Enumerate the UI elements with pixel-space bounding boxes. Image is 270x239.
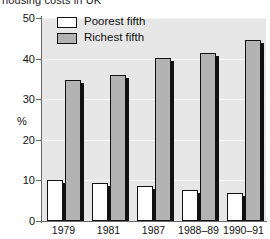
legend-label: Poorest fifth [84, 16, 145, 28]
bar-richest-1987 [155, 58, 171, 221]
y-tick-label: 30 [3, 93, 35, 105]
y-tick-mark [36, 99, 41, 100]
bar-richest-1990-91 [245, 40, 261, 221]
y-tick-label: 50 [3, 12, 35, 24]
bar-shadow [171, 61, 174, 221]
bar-poorest-1988-89 [182, 190, 198, 221]
x-tick-label: 1981 [97, 224, 120, 236]
x-axis-line [41, 221, 267, 222]
x-tick-label: 1979 [52, 224, 75, 236]
y-tick-label: 10 [3, 174, 35, 186]
bar-poorest-1987 [137, 186, 153, 221]
bar-richest-1979 [65, 80, 81, 221]
y-tick-mark [36, 180, 41, 181]
chart-legend: Poorest fifthRichest fifth [57, 15, 145, 47]
x-tick-label: 1987 [142, 224, 165, 236]
bar-richest-1988-89 [200, 53, 216, 221]
bar-shadow [81, 83, 84, 221]
y-tick-label: 0 [3, 215, 35, 227]
y-tick-mark [36, 221, 41, 222]
bar-chart: housing costs in UK % 01020304050 197919… [0, 0, 270, 239]
y-tick-label: 40 [3, 53, 35, 65]
x-tick-label: 1990–91 [223, 224, 264, 236]
y-axis-label: % [17, 115, 27, 127]
y-tick-mark [36, 140, 41, 141]
bar-shadow [261, 43, 264, 221]
legend-swatch-richest [57, 33, 77, 44]
x-tick-label: 1988–89 [178, 224, 219, 236]
y-tick-mark [36, 59, 41, 60]
bar-poorest-1979 [47, 180, 63, 221]
legend-item: Poorest fifth [57, 15, 145, 29]
bar-poorest-1990-91 [227, 193, 243, 221]
y-tick-mark [36, 18, 41, 19]
legend-label: Richest fifth [84, 32, 144, 44]
bar-poorest-1981 [92, 183, 108, 221]
bar-shadow [126, 78, 129, 221]
legend-swatch-poorest [57, 17, 77, 28]
bar-shadow [216, 56, 219, 221]
y-axis-line [41, 16, 42, 223]
gridline [41, 59, 266, 60]
legend-item: Richest fifth [57, 31, 145, 45]
y-tick-label: 20 [3, 134, 35, 146]
chart-title: housing costs in UK [2, 0, 101, 6]
bar-richest-1981 [110, 75, 126, 221]
